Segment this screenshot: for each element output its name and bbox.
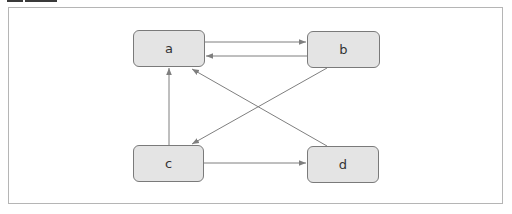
diagram-edges — [0, 0, 512, 214]
edge-d-to-a — [192, 69, 327, 146]
node-label: d — [339, 157, 347, 172]
node-b[interactable]: b — [307, 31, 380, 68]
node-d[interactable]: d — [307, 146, 379, 183]
node-label: b — [339, 42, 347, 57]
node-label: a — [165, 41, 173, 56]
node-label: c — [165, 156, 172, 171]
node-c[interactable]: c — [133, 145, 204, 182]
node-a[interactable]: a — [133, 30, 205, 67]
edge-b-to-c — [192, 68, 327, 144]
